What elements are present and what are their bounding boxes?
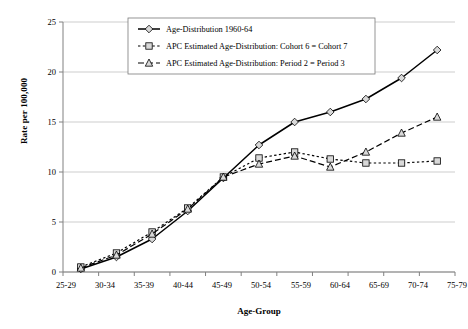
legend-label-0: Age-Distribution 1960-64	[166, 25, 253, 34]
data-point-1-10	[434, 158, 440, 164]
plot-area: Age-Distribution 1960-64APC Estimated Ag…	[0, 0, 468, 329]
data-point-0-6	[291, 118, 299, 126]
data-point-1-8	[363, 160, 369, 166]
legend-label-1: APC Estimated Age-Distribution: Cohort 6…	[166, 42, 347, 51]
legend-marker-1	[146, 43, 152, 49]
data-point-2-8	[362, 148, 369, 155]
data-point-1-9	[398, 160, 404, 166]
data-point-1-7	[327, 156, 333, 162]
data-series-layer	[77, 46, 441, 273]
series-line-2	[81, 117, 437, 268]
x-tick-marks	[63, 272, 455, 276]
data-point-0-7	[326, 108, 334, 116]
data-point-0-8	[362, 95, 370, 103]
y-tick-marks	[59, 22, 63, 272]
data-point-2-10	[433, 113, 440, 120]
data-point-2-9	[398, 129, 405, 136]
chart-legend: Age-Distribution 1960-64APC Estimated Ag…	[128, 18, 375, 74]
chart-container: Rate per 100,000 25 20 15 10 5 0 25-29 3…	[0, 0, 468, 329]
legend-label-2: APC Estimated Age-Distribution: Period 2…	[166, 59, 345, 68]
series-line-1	[81, 152, 437, 267]
